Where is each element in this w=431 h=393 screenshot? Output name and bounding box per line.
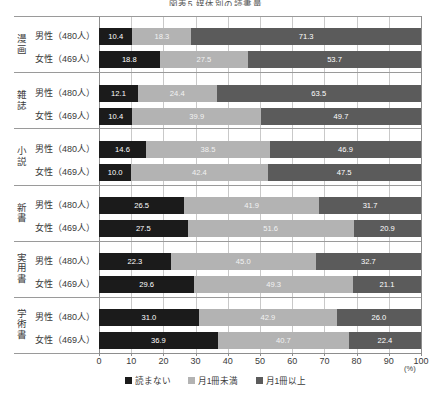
bar-segment-月1冊以上: 26.0 <box>337 309 421 326</box>
x-tick-label-10: 10 <box>126 356 136 366</box>
series-row-label: 男性（480人） <box>35 253 95 270</box>
legend-item-2: 月1冊以上 <box>256 374 307 386</box>
bar-segment-月1冊以上: 63.5 <box>217 85 421 102</box>
bar-row: 26.541.931.7 <box>99 197 421 214</box>
legend-swatch-icon <box>125 377 132 384</box>
category-name-0: 漫 画 <box>14 34 30 55</box>
series-row-label: 女性（469人） <box>35 108 95 125</box>
category-name-3: 新 書 <box>14 202 30 223</box>
bar-segment-月1冊以上: 20.9 <box>354 220 421 237</box>
bar-segment-月1冊未満: 45.0 <box>171 253 316 270</box>
x-tick-label-60: 60 <box>287 356 297 366</box>
category-separator <box>14 353 99 354</box>
group-separator <box>99 297 421 298</box>
bar-row: 18.827.553.7 <box>99 51 421 68</box>
category-separator <box>14 16 99 17</box>
category-separator <box>14 185 99 186</box>
legend-swatch-icon <box>188 377 195 384</box>
bar-segment-月1冊以上: 53.7 <box>248 51 421 68</box>
bar-segment-読まない: 10.4 <box>99 28 132 45</box>
x-tick-label-80: 80 <box>352 356 362 366</box>
bar-segment-月1冊以上: 49.7 <box>261 108 421 125</box>
series-row-label: 女性（469人） <box>35 164 95 181</box>
category-separator <box>14 241 99 242</box>
x-axis: 0102030405060708090100 <box>99 353 421 369</box>
bar-segment-読まない: 29.6 <box>99 276 194 293</box>
bar-row: 31.042.926.0 <box>99 309 421 326</box>
bar-segment-月1冊未満: 41.9 <box>184 197 319 214</box>
x-tick-label-70: 70 <box>319 356 329 366</box>
series-row-label: 男性（480人） <box>35 309 95 326</box>
bar-segment-月1冊以上: 31.7 <box>319 197 421 214</box>
category-name-1: 雑 誌 <box>14 90 30 111</box>
category-label-column: 漫 画男性（480人）女性（469人）雑 誌男性（480人）女性（469人）小 … <box>0 16 99 353</box>
bar-segment-月1冊未満: 40.7 <box>218 332 349 349</box>
x-tick-label-20: 20 <box>158 356 168 366</box>
x-tick-label-0: 0 <box>96 356 101 366</box>
bar-segment-月1冊未満: 49.3 <box>194 276 353 293</box>
bar-segment-読まない: 18.8 <box>99 51 160 68</box>
x-tick-label-40: 40 <box>223 356 233 366</box>
bar-segment-月1冊以上: 47.5 <box>268 164 421 181</box>
axis-unit-label: (%) <box>404 364 416 373</box>
bar-segment-月1冊未満: 38.5 <box>146 141 270 158</box>
bar-segment-読まない: 10.4 <box>99 108 132 125</box>
group-separator <box>99 72 421 73</box>
category-separator <box>14 128 99 129</box>
series-row-label: 男性（480人） <box>35 141 95 158</box>
plot-area: 10.418.371.318.827.553.712.124.463.510.4… <box>99 16 421 353</box>
legend-item-1: 月1冊未満 <box>188 374 239 386</box>
category-separator <box>14 297 99 298</box>
bar-segment-読まない: 36.9 <box>99 332 218 349</box>
bar-segment-月1冊以上: 21.1 <box>353 276 421 293</box>
bar-row: 14.638.546.9 <box>99 141 421 158</box>
group-separator <box>99 128 421 129</box>
legend-item-0: 読まない <box>125 374 171 386</box>
bar-segment-読まない: 27.5 <box>99 220 188 237</box>
bar-row: 10.439.949.7 <box>99 108 421 125</box>
legend: 読まない月1冊未満月1冊以上 <box>0 374 431 386</box>
bar-segment-月1冊以上: 22.4 <box>349 332 421 349</box>
series-row-label: 女性（469人） <box>35 51 95 68</box>
bar-row: 10.418.371.3 <box>99 28 421 45</box>
category-name-5: 学 術 書 <box>14 309 30 341</box>
group-separator <box>99 16 421 17</box>
chart-title: 図表5 媒体別の読書量 <box>0 0 431 6</box>
legend-label: 月1冊未満 <box>198 374 239 386</box>
bar-segment-読まない: 10.0 <box>99 164 131 181</box>
series-row-label: 女性（469人） <box>35 276 95 293</box>
category-name-4: 実 用 書 <box>14 253 30 285</box>
gridline-100 <box>421 16 422 353</box>
series-row-label: 男性（480人） <box>35 85 95 102</box>
legend-label: 読まない <box>135 374 171 386</box>
group-separator <box>99 185 421 186</box>
bar-segment-月1冊以上: 71.3 <box>191 28 421 45</box>
bar-segment-読まない: 26.5 <box>99 197 184 214</box>
bar-row: 10.042.447.5 <box>99 164 421 181</box>
bar-row: 12.124.463.5 <box>99 85 421 102</box>
x-tick-label-50: 50 <box>255 356 265 366</box>
series-row-label: 女性（469人） <box>35 332 95 349</box>
bar-segment-月1冊未満: 42.4 <box>131 164 268 181</box>
bar-segment-読まない: 31.0 <box>99 309 199 326</box>
bar-segment-月1冊未満: 51.6 <box>188 220 354 237</box>
bar-segment-読まない: 22.3 <box>99 253 171 270</box>
group-separator <box>99 241 421 242</box>
bar-segment-月1冊以上: 46.9 <box>270 141 421 158</box>
bar-segment-読まない: 12.1 <box>99 85 138 102</box>
bar-segment-月1冊未満: 18.3 <box>132 28 191 45</box>
bar-row: 29.649.321.1 <box>99 276 421 293</box>
bar-segment-月1冊未満: 39.9 <box>132 108 260 125</box>
legend-swatch-icon <box>256 377 263 384</box>
bar-row: 36.940.722.4 <box>99 332 421 349</box>
x-tick-label-90: 90 <box>384 356 394 366</box>
bar-segment-月1冊以上: 32.7 <box>316 253 421 270</box>
series-row-label: 女性（469人） <box>35 220 95 237</box>
bar-segment-月1冊未満: 27.5 <box>160 51 249 68</box>
category-name-2: 小 説 <box>14 146 30 167</box>
bar-segment-月1冊未満: 24.4 <box>138 85 217 102</box>
category-separator <box>14 72 99 73</box>
x-tick-label-30: 30 <box>191 356 201 366</box>
bar-segment-読まない: 14.6 <box>99 141 146 158</box>
bar-row: 22.345.032.7 <box>99 253 421 270</box>
